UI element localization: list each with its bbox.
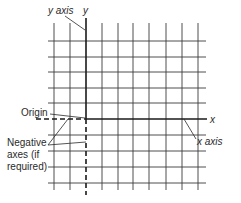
y-axis-leader [65, 16, 85, 30]
x-axis-callout-label: x axis [196, 136, 223, 147]
x-axis-letter: x [209, 114, 216, 125]
x-axis-leader [184, 119, 196, 139]
negative-axes-label-line2: axes (if [7, 149, 39, 160]
negative-axes-label-line1: Negative [7, 137, 47, 148]
origin-label: Origin [21, 107, 48, 118]
cartesian-axes-diagram: y axis y x x axis Origin Negative axes (… [0, 0, 241, 203]
y-axis-letter: y [82, 5, 89, 16]
grid [48, 23, 206, 190]
y-axis-callout-label: y axis [47, 5, 74, 16]
negative-axes-label-line3: required) [7, 161, 47, 172]
origin-leader [50, 114, 85, 118]
